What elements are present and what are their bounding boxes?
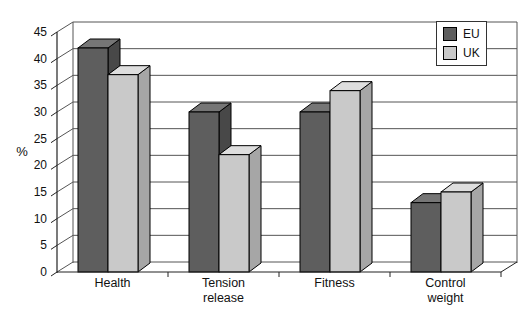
legend-swatch-uk bbox=[443, 46, 457, 60]
leftwall-gridline-25 bbox=[57, 129, 73, 139]
y-tick-label-45: 45 bbox=[34, 25, 48, 39]
legend-label-eu: EU bbox=[463, 28, 480, 40]
bar-eu-health-front bbox=[78, 48, 108, 272]
y-tick-20 bbox=[51, 165, 57, 169]
y-tick-15 bbox=[51, 192, 57, 196]
bar-uk-tension-release-front bbox=[219, 155, 249, 272]
bar-uk-control-weight-front bbox=[441, 192, 471, 272]
category-label-tension-release-line2: release bbox=[203, 291, 244, 305]
leftwall-gridline-45 bbox=[57, 22, 73, 32]
y-tick-label-10: 10 bbox=[34, 212, 48, 226]
y-tick-label-25: 25 bbox=[34, 132, 48, 146]
bar-uk-control-weight bbox=[441, 183, 483, 272]
y-tick-0 bbox=[51, 272, 57, 276]
y-tick-label-30: 30 bbox=[34, 105, 48, 119]
category-label-fitness: Fitness bbox=[314, 276, 354, 290]
y-tick-35 bbox=[51, 85, 57, 89]
y-tick-30 bbox=[51, 112, 57, 116]
bar-uk-health-front bbox=[108, 75, 138, 272]
bar-uk-fitness bbox=[330, 82, 372, 272]
bar-uk-fitness-front bbox=[330, 91, 360, 272]
bar-uk-health-side bbox=[138, 66, 150, 272]
leftwall-gridline-30 bbox=[57, 102, 73, 112]
bar-eu-fitness-front bbox=[300, 112, 330, 272]
leftwall-gridline-35 bbox=[57, 75, 73, 85]
category-label-control-weight-line2: weight bbox=[426, 291, 464, 305]
legend-item-uk: UK bbox=[443, 46, 480, 60]
legend-label-uk: UK bbox=[463, 47, 480, 59]
leftwall-gridline-5 bbox=[57, 235, 73, 245]
leftwall-gridline-40 bbox=[57, 49, 73, 59]
bar-uk-tension-release bbox=[219, 146, 261, 272]
y-axis-labels: 051015202530354045% bbox=[16, 25, 47, 279]
bar-eu-control-weight-front bbox=[411, 203, 441, 272]
y-tick-label-5: 5 bbox=[40, 238, 47, 252]
bar-uk-fitness-side bbox=[360, 82, 372, 272]
y-tick-label-0: 0 bbox=[40, 265, 47, 279]
y-tick-label-35: 35 bbox=[34, 78, 48, 92]
leftwall-gridline-10 bbox=[57, 209, 73, 219]
y-axis-title: % bbox=[16, 144, 28, 159]
chart: 051015202530354045%HealthTensionreleaseF… bbox=[0, 0, 530, 315]
y-tick-label-20: 20 bbox=[34, 158, 48, 172]
y-tick-25 bbox=[51, 139, 57, 143]
bar-uk-control-weight-side bbox=[471, 183, 483, 272]
category-label-control-weight-line1: Control bbox=[425, 276, 465, 290]
y-tick-45 bbox=[51, 32, 57, 36]
leftwall-gridline-0 bbox=[57, 262, 73, 272]
leftwall-gridline-15 bbox=[57, 182, 73, 192]
bar-uk-health bbox=[108, 66, 150, 272]
leftwall-gridline-20 bbox=[57, 155, 73, 165]
category-label-tension-release-line1: Tension bbox=[202, 276, 245, 290]
y-tick-40 bbox=[51, 59, 57, 63]
y-tick-10 bbox=[51, 219, 57, 223]
bar-uk-tension-release-side bbox=[249, 146, 261, 272]
bar-eu-tension-release-front bbox=[189, 112, 219, 272]
category-labels: HealthTensionreleaseFitnessControlweight bbox=[94, 276, 465, 305]
floor-right-edge bbox=[501, 262, 517, 272]
y-tick-label-40: 40 bbox=[34, 52, 48, 66]
y-tick-5 bbox=[51, 245, 57, 249]
category-label-health: Health bbox=[94, 276, 130, 290]
legend-swatch-eu bbox=[443, 27, 457, 41]
legend: EU UK bbox=[436, 21, 487, 66]
legend-item-eu: EU bbox=[443, 27, 480, 41]
y-tick-label-15: 15 bbox=[34, 185, 48, 199]
